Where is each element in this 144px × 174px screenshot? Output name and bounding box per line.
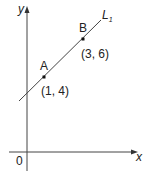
- point-a: [43, 76, 46, 79]
- origin-label: 0: [16, 154, 23, 168]
- y-axis-arrow-icon: [25, 6, 30, 13]
- x-axis-label: x: [135, 150, 143, 164]
- coordinate-diagram: y 0 x L1 A (1, 4) B (3, 6): [0, 0, 144, 174]
- line-label-name: L: [102, 8, 109, 22]
- line-label: L1: [102, 8, 113, 23]
- y-axis-label: y: [17, 2, 25, 16]
- point-b-label: B: [79, 21, 87, 35]
- point-b: [82, 38, 85, 41]
- line-label-subscript: 1: [109, 16, 113, 23]
- point-b-coords: (3, 6): [81, 47, 109, 61]
- point-a-coords: (1, 4): [41, 84, 69, 98]
- point-a-label: A: [40, 59, 48, 73]
